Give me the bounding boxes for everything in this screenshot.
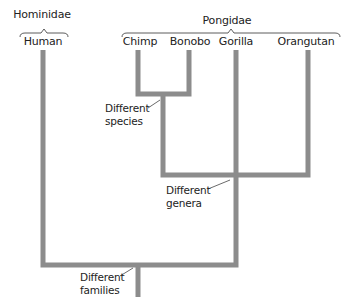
family-label-hominidae: Hominidae bbox=[13, 9, 71, 21]
annotation-line1: Different bbox=[166, 184, 210, 197]
family-label-pongidae: Pongidae bbox=[203, 15, 252, 27]
annotation-different-families: Different families bbox=[80, 271, 124, 297]
species-label-bonobo: Bonobo bbox=[170, 36, 211, 48]
tree-branches bbox=[43, 50, 308, 297]
annotation-different-genera: Different genera bbox=[166, 184, 210, 210]
leader-line-species bbox=[148, 100, 160, 108]
annotation-line1: Different bbox=[80, 271, 124, 284]
annotation-line2: families bbox=[80, 284, 124, 297]
species-label-chimp: Chimp bbox=[123, 36, 157, 48]
annotation-line2: species bbox=[105, 115, 149, 128]
branch-chimp-bonobo bbox=[138, 50, 189, 94]
species-label-gorilla: Gorilla bbox=[219, 36, 253, 48]
annotation-line1: Different bbox=[105, 102, 149, 115]
species-label-orangutan: Orangutan bbox=[277, 36, 334, 48]
annotation-line2: genera bbox=[166, 197, 210, 210]
annotation-different-species: Different species bbox=[105, 102, 149, 128]
leader-line-genera bbox=[208, 180, 230, 189]
species-label-human: Human bbox=[24, 36, 63, 48]
